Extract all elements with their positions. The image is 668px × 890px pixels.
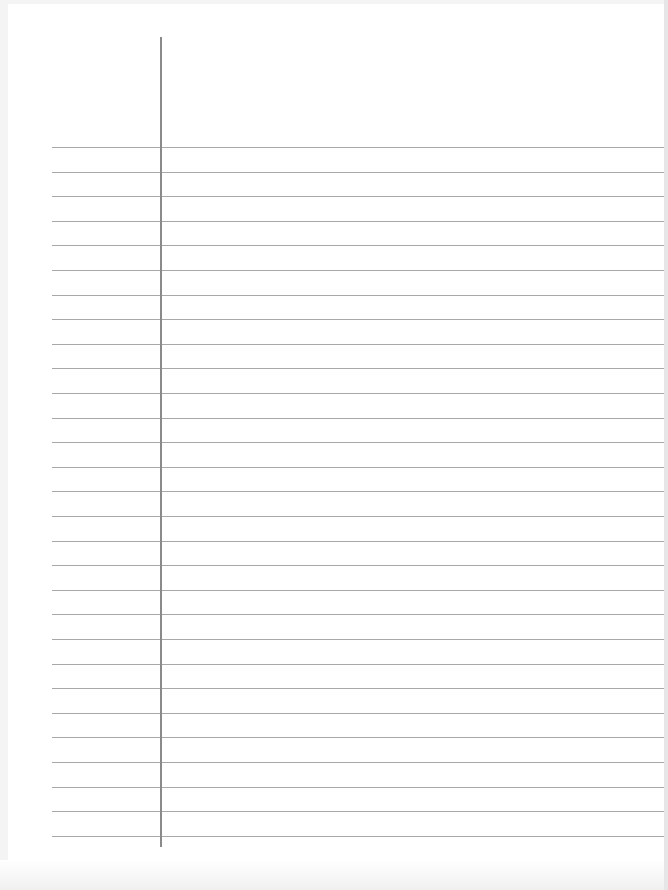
ruled-line [52,639,664,640]
ruled-line [52,811,664,812]
ruled-line [52,836,664,837]
margin-line [160,37,162,847]
ruled-line [52,172,664,173]
ruled-line [52,664,664,665]
ruled-line [52,147,664,148]
ruled-line [52,270,664,271]
ruled-line [52,344,664,345]
ruled-line [52,590,664,591]
paper-sheet [8,4,664,886]
ruled-line [52,245,664,246]
ruled-line [52,442,664,443]
ruled-line [52,787,664,788]
ruled-line [52,762,664,763]
ruled-line [52,393,664,394]
ruled-line [52,565,664,566]
ruled-line [52,467,664,468]
ruled-line [52,368,664,369]
paper-right-edge [664,0,668,890]
ruled-line [52,196,664,197]
ruled-line [52,737,664,738]
ruled-line [52,688,664,689]
ruled-line [52,319,664,320]
ruled-line [52,295,664,296]
ruled-line [52,713,664,714]
ruled-line [52,614,664,615]
ruled-line [52,221,664,222]
ruled-line [52,491,664,492]
paper-bottom-shadow [0,860,668,890]
ruled-line [52,541,664,542]
ruled-line [52,418,664,419]
ruled-line [52,516,664,517]
